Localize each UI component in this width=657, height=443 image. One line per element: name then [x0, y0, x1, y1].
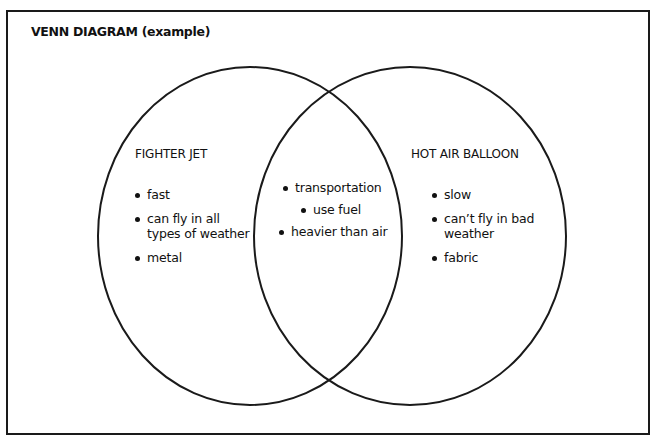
left-set-label: FIGHTER JET	[135, 147, 207, 161]
list-item: can’t fly in bad weather	[431, 211, 544, 241]
intersection-items: transportation use fuel heavier than air	[282, 180, 387, 246]
list-item: slow	[431, 187, 541, 202]
list-item: fabric	[431, 250, 541, 265]
list-item: can fly in all types of weather	[134, 211, 257, 241]
list-item: heavier than air	[278, 224, 387, 239]
list-item: metal	[134, 250, 254, 265]
right-set-label: HOT AIR BALLOON	[411, 147, 519, 161]
left-set-items: fast can fly in all types of weather met…	[134, 187, 254, 274]
list-item: fast	[134, 187, 254, 202]
right-set-items: slow can’t fly in bad weather fabric	[431, 187, 541, 274]
list-item: transportation	[282, 180, 387, 195]
list-item: use fuel	[300, 202, 387, 217]
